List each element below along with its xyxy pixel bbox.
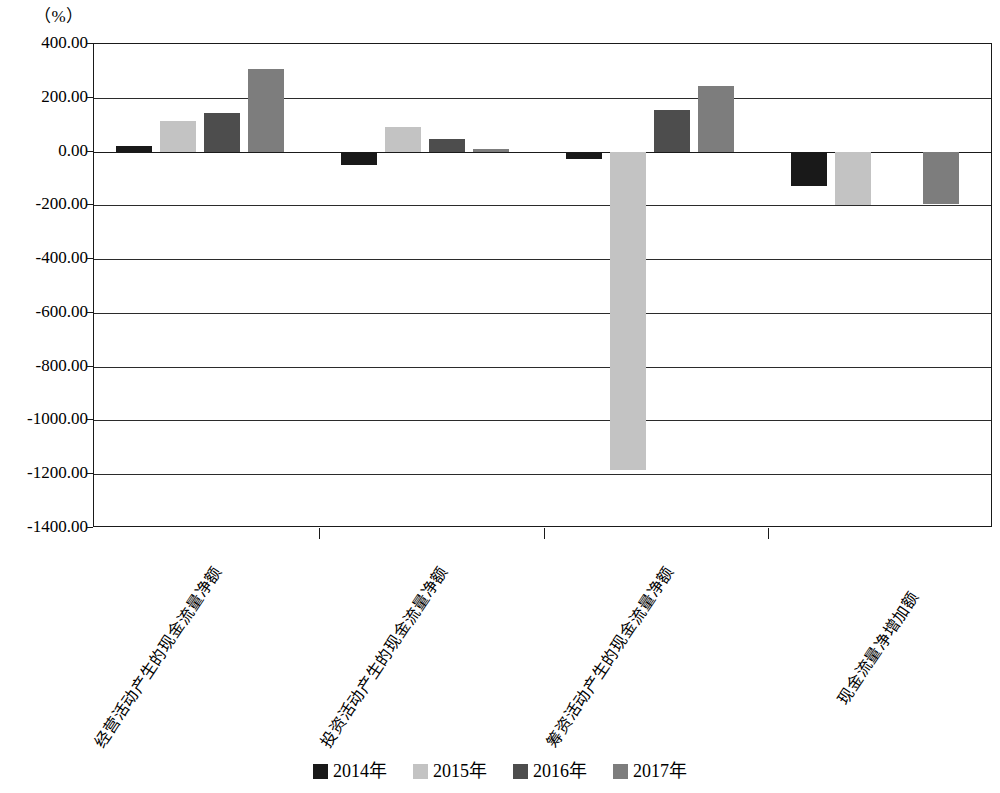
legend-swatch-icon bbox=[513, 764, 528, 779]
legend-item: 2015年 bbox=[413, 762, 487, 780]
y-axis-tick-labels: 400.00200.000.00-200.00-400.00-600.00-80… bbox=[0, 43, 88, 527]
y-tick-label: -800.00 bbox=[0, 357, 88, 374]
x-axis-label-4: 现金流量净增加额 bbox=[834, 589, 923, 708]
legend-label: 2014年 bbox=[333, 762, 387, 780]
bar bbox=[473, 149, 509, 152]
y-tick-mark bbox=[86, 473, 93, 474]
legend-swatch-icon bbox=[313, 764, 328, 779]
legend-item: 2017年 bbox=[613, 762, 687, 780]
legend-label: 2015年 bbox=[433, 762, 487, 780]
legend-label: 2017年 bbox=[633, 762, 687, 780]
y-tick-mark bbox=[86, 312, 93, 313]
y-tick-label: -1000.00 bbox=[0, 410, 88, 427]
legend-item: 2014年 bbox=[313, 762, 387, 780]
x-axis-label-3: 筹资活动产生的现金流量净额 bbox=[543, 563, 678, 751]
y-tick-mark bbox=[86, 151, 93, 152]
bar bbox=[204, 113, 240, 152]
bar bbox=[835, 152, 871, 206]
legend-item: 2016年 bbox=[513, 762, 587, 780]
bar bbox=[160, 121, 196, 152]
y-tick-mark bbox=[86, 97, 93, 98]
y-tick-label: 200.00 bbox=[0, 88, 88, 105]
cash-flow-bar-chart: （%） 400.00200.000.00-200.00-400.00-600.0… bbox=[0, 0, 1000, 793]
bar bbox=[248, 69, 284, 152]
y-tick-label: -400.00 bbox=[0, 249, 88, 266]
y-tick-mark bbox=[86, 366, 93, 367]
y-tick-mark bbox=[86, 527, 93, 528]
bar bbox=[698, 86, 734, 152]
bar bbox=[116, 146, 152, 151]
y-tick-mark bbox=[86, 43, 93, 44]
bar bbox=[385, 127, 421, 151]
y-tick-label: 0.00 bbox=[0, 142, 88, 159]
bar bbox=[654, 110, 690, 152]
y-tick-mark bbox=[86, 258, 93, 259]
chart-legend: 2014年2015年2016年2017年 bbox=[0, 762, 1000, 780]
bar bbox=[341, 152, 377, 165]
bar bbox=[923, 152, 959, 204]
y-tick-mark bbox=[86, 419, 93, 420]
y-tick-mark bbox=[86, 204, 93, 205]
y-tick-label: -1400.00 bbox=[0, 518, 88, 535]
x-axis-label-2: 投资活动产生的现金流量净额 bbox=[317, 563, 452, 751]
bar bbox=[791, 152, 827, 186]
y-axis-unit-label: （%） bbox=[34, 2, 84, 27]
bar bbox=[429, 139, 465, 151]
bars-layer bbox=[94, 44, 991, 526]
y-tick-label: 400.00 bbox=[0, 34, 88, 51]
y-tick-label: -200.00 bbox=[0, 195, 88, 212]
x-axis-label-1: 经营活动产生的现金流量净额 bbox=[91, 563, 226, 751]
legend-label: 2016年 bbox=[533, 762, 587, 780]
legend-swatch-icon bbox=[413, 764, 428, 779]
category-separator bbox=[768, 528, 769, 539]
category-separator bbox=[544, 528, 545, 539]
bar bbox=[566, 152, 602, 160]
category-separator bbox=[319, 528, 320, 539]
y-tick-label: -600.00 bbox=[0, 303, 88, 320]
y-tick-label: -1200.00 bbox=[0, 464, 88, 481]
bar bbox=[610, 152, 646, 471]
plot-area bbox=[93, 43, 992, 527]
legend-swatch-icon bbox=[613, 764, 628, 779]
